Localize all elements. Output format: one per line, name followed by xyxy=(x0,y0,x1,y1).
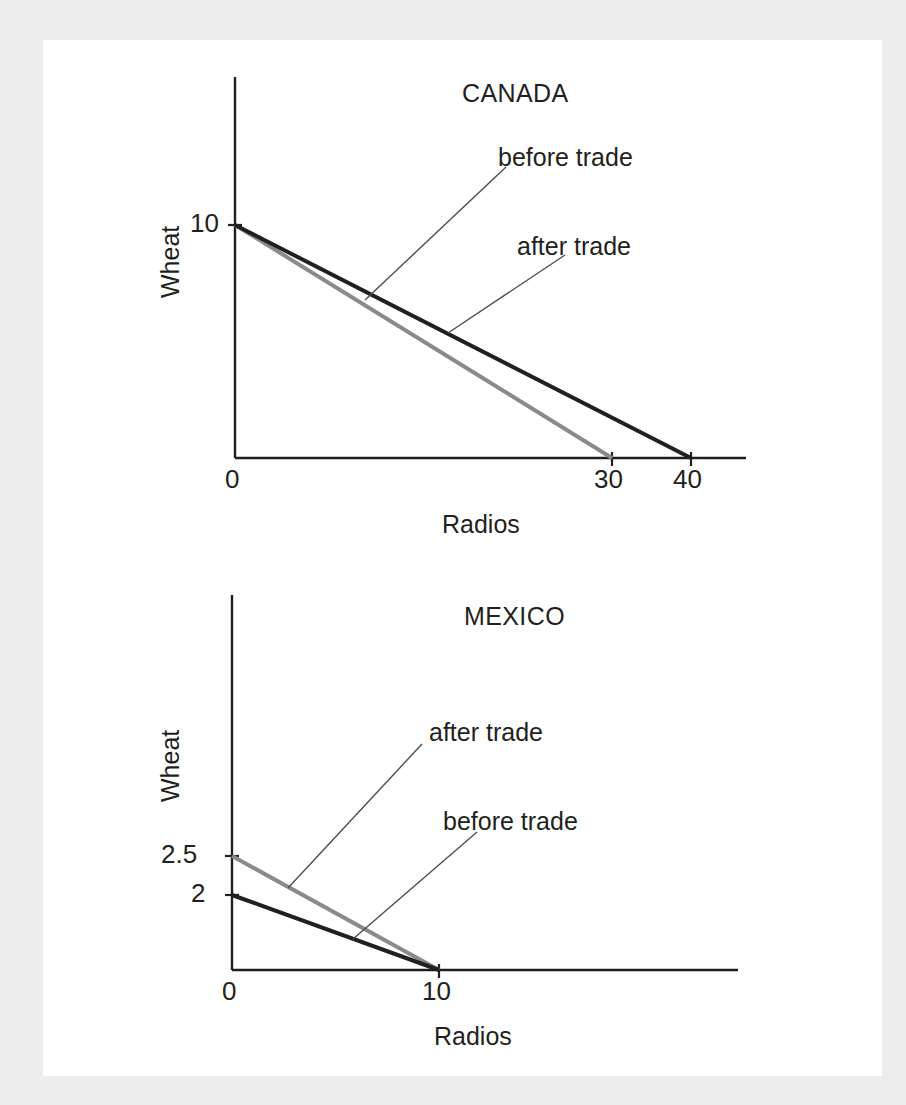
canada-x-axis-label: Radios xyxy=(442,510,520,539)
canada-y-axis-label: Wheat xyxy=(156,226,185,298)
mexico-chart-title: MEXICO xyxy=(464,602,565,631)
canada-x-tick-label-30: 30 xyxy=(594,464,623,495)
mexico-annotation-before-trade: before trade xyxy=(443,807,578,836)
canada-chart-title: CANADA xyxy=(462,79,569,108)
chart-canada-graphics xyxy=(43,40,882,558)
mexico-x-tick-label-0: 0 xyxy=(222,976,236,1007)
canada-x-tick-label-40: 40 xyxy=(673,464,702,495)
mexico-x-tick-label-10: 10 xyxy=(422,976,451,1007)
mexico-line-before-trade xyxy=(232,895,439,970)
mexico-y-tick-label-2: 2 xyxy=(191,878,205,909)
canada-leader-after-trade xyxy=(448,255,565,333)
canada-annotation-after-trade: after trade xyxy=(517,232,631,261)
mexico-annotation-after-trade: after trade xyxy=(429,718,543,747)
figure-page: CANADA before trade after trade 10 0 30 … xyxy=(0,0,906,1105)
canada-x-tick-label-0: 0 xyxy=(225,464,239,495)
canada-leader-before-trade xyxy=(365,167,506,300)
chart-mexico: MEXICO after trade before trade 2.5 2 0 … xyxy=(43,558,882,1076)
mexico-leader-before-trade xyxy=(353,832,477,939)
mexico-y-axis-label: Wheat xyxy=(156,730,185,802)
mexico-line-after-trade xyxy=(232,856,439,970)
mexico-y-tick-label-2-5: 2.5 xyxy=(161,839,197,870)
mexico-x-axis-label: Radios xyxy=(434,1022,512,1051)
canada-y-tick-label-10: 10 xyxy=(190,208,219,239)
chart-canada: CANADA before trade after trade 10 0 30 … xyxy=(43,40,882,558)
canada-annotation-before-trade: before trade xyxy=(498,143,633,172)
mexico-leader-after-trade xyxy=(288,744,422,888)
paper-sheet: CANADA before trade after trade 10 0 30 … xyxy=(43,40,882,1076)
